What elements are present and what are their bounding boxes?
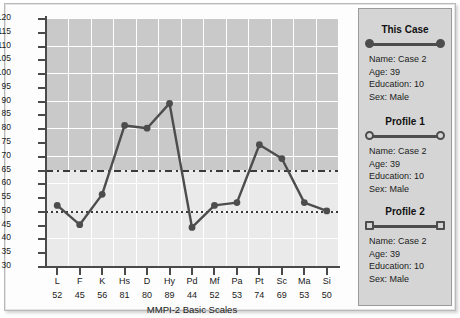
x-tick-label-Si: Si: [312, 276, 342, 287]
legend-field-0: Name: Case 2: [369, 145, 451, 158]
mmpi-profile-chart: 1201151101051009590858075706560555045403…: [14, 8, 350, 304]
x-tick-mark: [146, 268, 148, 275]
data-point-Hy[interactable]: [166, 100, 173, 107]
x-tick-mark: [213, 268, 215, 275]
legend-entry-title: Profile 1: [359, 115, 451, 128]
legend-marker-filled-circle: [436, 39, 445, 48]
y-tick-label: 95: [2, 81, 11, 91]
data-point-Ma[interactable]: [301, 199, 308, 206]
y-tick-mark: [38, 59, 46, 61]
series-line-0: [57, 103, 327, 227]
y-tick-mark: [38, 225, 46, 227]
y-tick-label: 70: [2, 150, 11, 160]
legend-line: [369, 225, 441, 228]
y-tick-mark: [38, 18, 46, 20]
y-tick-mark: [38, 128, 46, 130]
legend-field-0: Name: Case 2: [369, 53, 451, 66]
data-point-Hs[interactable]: [121, 122, 128, 129]
legend-marker-hollow-square: [365, 221, 374, 230]
x-tick-mark: [169, 268, 171, 275]
data-point-D[interactable]: [144, 125, 151, 132]
legend-entry-fields: Name: Case 2Age: 39Education: 10Sex: Mal…: [369, 53, 451, 103]
x-tick-mark: [303, 268, 305, 275]
y-tick-label: 90: [2, 95, 11, 105]
y-tick-mark: [38, 46, 46, 48]
legend-field-1: Age: 39: [369, 248, 451, 261]
legend-entry-title: Profile 2: [359, 205, 451, 218]
y-tick-label: 55: [2, 191, 11, 201]
data-point-Pa[interactable]: [234, 199, 241, 206]
y-tick-label: 45: [2, 219, 11, 229]
y-tick-mark: [38, 211, 46, 213]
data-point-Si[interactable]: [323, 207, 330, 214]
y-tick-label: 85: [2, 108, 11, 118]
y-tick-label: 100: [0, 67, 11, 77]
y-tick-mark: [38, 32, 46, 34]
data-point-K[interactable]: [99, 191, 106, 198]
y-tick-label: 35: [2, 246, 11, 256]
legend-field-2: Education: 10: [369, 170, 451, 183]
y-tick-label: 40: [2, 232, 11, 242]
y-tick-label: 80: [2, 122, 11, 132]
y-tick-mark: [38, 114, 46, 116]
y-tick-mark: [38, 142, 46, 144]
y-tick-mark: [38, 183, 46, 185]
legend-marker-filled-circle: [365, 39, 374, 48]
y-tick-mark: [38, 87, 46, 89]
y-tick-label: 30: [2, 260, 11, 270]
x-tick-mark: [281, 268, 283, 275]
data-point-Sc[interactable]: [278, 155, 285, 162]
x-axis-title: MMPI-2 Basic Scales: [46, 304, 338, 315]
y-tick-label: 50: [2, 205, 11, 215]
x-tick-mark: [101, 268, 103, 275]
legend-field-1: Age: 39: [369, 158, 451, 171]
data-point-F[interactable]: [76, 221, 83, 228]
y-tick-mark: [38, 238, 46, 240]
x-tick-mark: [258, 268, 260, 275]
gridline-vertical: [338, 18, 339, 266]
legend-field-2: Education: 10: [369, 260, 451, 273]
screenshot-root: 1201151101051009590858075706560555045403…: [0, 0, 460, 318]
x-tick-mark: [191, 268, 193, 275]
legend-entry-2[interactable]: Profile 1Name: Case 2Age: 39Education: 1…: [359, 115, 451, 195]
legend-entry-title: This Case: [359, 23, 451, 36]
y-tick-mark: [38, 266, 46, 268]
legend-sample-line: [365, 129, 445, 143]
legend-field-3: Sex: Male: [369, 183, 451, 196]
y-tick-label: 60: [2, 177, 11, 187]
legend-field-0: Name: Case 2: [369, 235, 451, 248]
legend-marker-hollow-square: [436, 221, 445, 230]
legend-sample-line: [365, 219, 445, 233]
y-tick-label: 115: [0, 26, 11, 36]
y-tick-mark: [38, 197, 46, 199]
data-point-Pt[interactable]: [256, 141, 263, 148]
y-tick-mark: [38, 156, 46, 158]
y-tick-label: 110: [0, 40, 11, 50]
legend-marker-hollow-circle: [365, 131, 374, 140]
y-tick-label: 105: [0, 53, 11, 63]
legend-sample-line: [365, 37, 445, 51]
data-point-Mf[interactable]: [211, 202, 218, 209]
x-tick-mark: [79, 268, 81, 275]
x-tick-mark: [124, 268, 126, 275]
legend-entry-fields: Name: Case 2Age: 39Education: 10Sex: Mal…: [369, 145, 451, 195]
legend-marker-hollow-circle: [436, 131, 445, 140]
plot-area: [46, 18, 338, 266]
x-tick-mark: [236, 268, 238, 275]
legend-field-3: Sex: Male: [369, 91, 451, 104]
legend-entry-fields: Name: Case 2Age: 39Education: 10Sex: Mal…: [369, 235, 451, 285]
legend-field-3: Sex: Male: [369, 273, 451, 286]
y-tick-label: 120: [0, 12, 11, 22]
legend-entry-1[interactable]: This CaseName: Case 2Age: 39Education: 1…: [359, 23, 451, 103]
data-point-L[interactable]: [54, 202, 61, 209]
y-tick-mark: [38, 252, 46, 254]
x-tick-mark: [56, 268, 58, 275]
y-tick-mark: [38, 73, 46, 75]
legend-panel: This CaseName: Case 2Age: 39Education: 1…: [358, 8, 452, 306]
legend-line: [369, 135, 441, 138]
y-tick-label: 65: [2, 164, 11, 174]
data-point-Pd[interactable]: [189, 224, 196, 231]
legend-entry-3[interactable]: Profile 2Name: Case 2Age: 39Education: 1…: [359, 205, 451, 285]
y-tick-label: 75: [2, 136, 11, 146]
legend-field-1: Age: 39: [369, 66, 451, 79]
